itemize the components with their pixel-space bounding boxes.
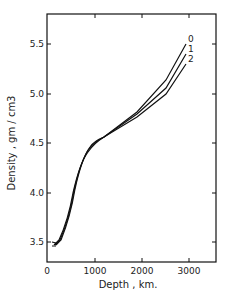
y-tick-label: 4.0 [30, 188, 45, 198]
x-axis-title: Depth , km. [99, 279, 158, 290]
y-tick-label: 5.0 [30, 89, 45, 99]
y-ticks [47, 44, 216, 242]
series-2-line [56, 64, 186, 245]
x-tick-label: 2000 [131, 266, 154, 276]
series-1-line [55, 54, 186, 245]
series-label-0: 0 [188, 34, 194, 44]
series-label-2: 2 [188, 54, 194, 64]
y-tick-label: 4.5 [30, 138, 44, 148]
x-tick-label: 3000 [178, 266, 201, 276]
y-tick-label: 5.5 [30, 39, 44, 49]
density-depth-chart: 5.5 5.0 4.5 4.0 3.5 0 1000 2000 3000 Dep… [0, 0, 230, 298]
y-axis-title: Density , gm / cm3 [6, 96, 17, 191]
series-0-line [54, 44, 186, 245]
x-ticks [95, 14, 189, 262]
series-label-1: 1 [188, 44, 194, 54]
y-tick-label: 3.5 [30, 237, 44, 247]
x-tick-label: 0 [44, 266, 50, 276]
x-tick-label: 1000 [84, 266, 107, 276]
